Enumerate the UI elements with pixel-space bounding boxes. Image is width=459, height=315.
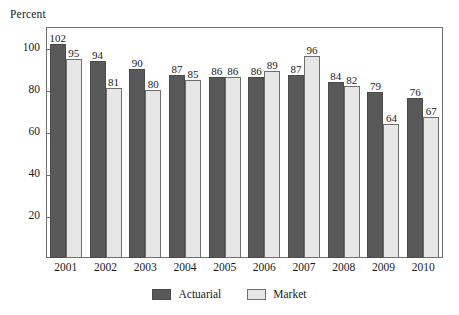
y-tick-label: 60 bbox=[29, 125, 41, 137]
x-axis-label-2007: 2007 bbox=[293, 261, 316, 273]
y-tick-label: 80 bbox=[29, 83, 41, 95]
x-axis-label-2006: 2006 bbox=[253, 261, 276, 273]
bar-value-label: 76 bbox=[410, 86, 421, 98]
bar-group-2005: 8686 bbox=[205, 27, 245, 258]
legend-swatch-market bbox=[247, 289, 266, 300]
legend-item-actuarial[interactable]: Actuarial bbox=[152, 288, 221, 300]
legend-item-market[interactable]: Market bbox=[247, 288, 306, 300]
bar-value-label: 86 bbox=[211, 65, 222, 77]
legend-label: Market bbox=[273, 288, 306, 300]
bar-value-label: 95 bbox=[68, 47, 79, 59]
x-axis-label-2008: 2008 bbox=[332, 261, 355, 273]
x-axis-label-2004: 2004 bbox=[173, 261, 196, 273]
x-axis-label-2003: 2003 bbox=[134, 261, 157, 273]
bar-value-label: 87 bbox=[291, 63, 302, 75]
bar-value-label: 90 bbox=[132, 57, 143, 69]
chart-legend: ActuarialMarket bbox=[0, 288, 459, 300]
legend-swatch-actuarial bbox=[152, 289, 171, 300]
bar-actuarial-2007: 87 bbox=[288, 75, 304, 258]
bar-actuarial-2009: 79 bbox=[367, 92, 383, 258]
bar-value-label: 79 bbox=[370, 80, 381, 92]
x-axis-label-2010: 2010 bbox=[412, 261, 435, 273]
bar-value-label: 87 bbox=[171, 63, 182, 75]
bar-market-2010: 67 bbox=[423, 117, 439, 258]
bar-value-label: 102 bbox=[50, 32, 67, 44]
bar-value-label: 86 bbox=[251, 65, 262, 77]
bar-value-label: 80 bbox=[148, 78, 159, 90]
bar-value-label: 64 bbox=[386, 112, 397, 124]
bar-value-label: 81 bbox=[108, 76, 119, 88]
x-axis-label-2009: 2009 bbox=[372, 261, 395, 273]
x-axis-label-2005: 2005 bbox=[213, 261, 236, 273]
y-axis-title: Percent bbox=[10, 8, 46, 20]
bar-group-2007: 8796 bbox=[284, 27, 324, 258]
bar-market-2003: 80 bbox=[145, 90, 161, 258]
y-tick-label: 100 bbox=[23, 41, 40, 53]
bar-value-label: 96 bbox=[307, 44, 318, 56]
bar-market-2009: 64 bbox=[383, 124, 399, 258]
bar-group-2009: 7964 bbox=[364, 27, 404, 258]
bar-actuarial-2010: 76 bbox=[407, 98, 423, 258]
x-axis-labels: 2001200220032004200520062007200820092010 bbox=[46, 261, 443, 279]
bar-group-2008: 8482 bbox=[324, 27, 364, 258]
bar-value-label: 82 bbox=[346, 74, 357, 86]
legend-label: Actuarial bbox=[178, 288, 221, 300]
x-axis-label-2001: 2001 bbox=[54, 261, 77, 273]
bar-actuarial-2001: 102 bbox=[50, 44, 66, 258]
bar-market-2008: 82 bbox=[344, 86, 360, 258]
bar-group-2004: 8785 bbox=[165, 27, 205, 258]
bar-value-label: 94 bbox=[92, 49, 103, 61]
bar-actuarial-2006: 86 bbox=[248, 77, 264, 258]
bar-market-2002: 81 bbox=[106, 88, 122, 258]
x-axis-label-2002: 2002 bbox=[94, 261, 117, 273]
bar-value-label: 89 bbox=[267, 59, 278, 71]
bar-value-label: 67 bbox=[426, 105, 437, 117]
bar-group-2001: 10295 bbox=[46, 27, 86, 258]
bar-market-2006: 89 bbox=[264, 71, 280, 258]
bar-actuarial-2005: 86 bbox=[209, 77, 225, 258]
bar-actuarial-2002: 94 bbox=[90, 61, 106, 258]
bar-market-2001: 95 bbox=[66, 59, 82, 259]
bar-group-2006: 8689 bbox=[245, 27, 285, 258]
bar-actuarial-2004: 87 bbox=[169, 75, 185, 258]
bar-group-2003: 9080 bbox=[125, 27, 165, 258]
bar-market-2007: 96 bbox=[304, 56, 320, 258]
bar-market-2005: 86 bbox=[225, 77, 241, 258]
bars-layer: 1029594819080878586868689879684827964766… bbox=[46, 27, 443, 258]
bar-value-label: 86 bbox=[227, 65, 238, 77]
bar-actuarial-2008: 84 bbox=[328, 82, 344, 258]
bar-chart: Percent 20406080100 10295948190808785868… bbox=[0, 0, 459, 315]
bar-value-label: 84 bbox=[330, 70, 341, 82]
y-tick-label: 20 bbox=[29, 209, 41, 221]
y-tick-label: 40 bbox=[29, 167, 41, 179]
bar-value-label: 85 bbox=[187, 68, 198, 80]
bar-group-2010: 7667 bbox=[403, 27, 443, 258]
bar-market-2004: 85 bbox=[185, 80, 201, 259]
bar-group-2002: 9481 bbox=[86, 27, 126, 258]
bar-actuarial-2003: 90 bbox=[129, 69, 145, 258]
